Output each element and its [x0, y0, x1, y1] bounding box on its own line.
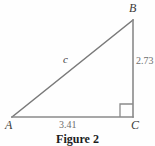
figure-caption: Figure 2 [0, 133, 155, 145]
hypotenuse-label: c [63, 54, 68, 65]
hypotenuse-line [12, 20, 133, 117]
figure-container: A B C c 2.73 3.41 Figure 2 [0, 0, 155, 146]
vertex-label-b: B [129, 2, 136, 14]
vertex-label-a: A [5, 119, 12, 131]
right-angle-marker-icon [120, 104, 133, 117]
vertical-leg-measure-label: 2.73 [136, 56, 154, 66]
horizontal-leg-measure-label: 3.41 [59, 120, 77, 130]
vertex-label-c: C [131, 119, 139, 131]
